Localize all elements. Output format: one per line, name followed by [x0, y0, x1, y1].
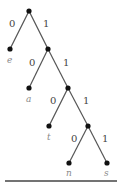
edge-label-0: 0: [71, 133, 77, 144]
edge-n3-n: [69, 126, 88, 163]
edge-label-1: 1: [43, 18, 49, 29]
edge-label-1: 1: [83, 95, 89, 106]
edge-n1-n2: [48, 49, 68, 88]
internal-node: [65, 85, 70, 90]
edge-label-0: 0: [9, 18, 15, 29]
edge-n2-t: [49, 88, 68, 126]
leaf-label-s: s: [104, 168, 109, 178]
edge-label-1: 1: [63, 57, 69, 68]
edge-label-1: 1: [102, 133, 108, 144]
internal-node: [45, 46, 50, 51]
nodes: [7, 8, 109, 165]
edge-n1-a: [29, 49, 48, 88]
binary-trie-diagram: 0 1 0 1 0 1 0 1 e a t n s: [0, 0, 117, 187]
leaf-labels: e a t n s: [7, 55, 109, 178]
edge-label-0: 0: [29, 57, 35, 68]
leaf-node-e: [7, 46, 12, 51]
leaf-node-n: [66, 160, 71, 165]
root-node: [26, 8, 31, 13]
edge-labels: 0 1 0 1 0 1 0 1: [9, 18, 108, 144]
leaf-label-a: a: [26, 94, 31, 104]
leaf-node-s: [104, 160, 109, 165]
leaf-label-e: e: [7, 55, 12, 65]
edge-root-n1: [29, 11, 48, 49]
leaf-label-t: t: [47, 132, 51, 142]
edge-n2-n3: [68, 88, 88, 126]
leaf-label-n: n: [66, 168, 72, 178]
edge-root-e: [10, 11, 29, 49]
leaf-node-t: [46, 123, 51, 128]
edge-label-0: 0: [50, 95, 56, 106]
edge-n3-s: [88, 126, 107, 163]
internal-node: [85, 123, 90, 128]
edges: [10, 11, 107, 163]
leaf-node-a: [26, 85, 31, 90]
